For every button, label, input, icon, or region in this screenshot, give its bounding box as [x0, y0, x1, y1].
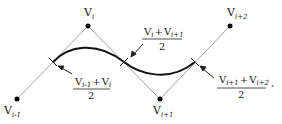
midpoint-formula-1: Vi-1+Vi 2 [73, 76, 111, 101]
vertex-dot-i-plus-1 [158, 97, 163, 102]
vertex-label-i: Vi [83, 6, 94, 21]
vertex-label-i-minus-1: Vi-1 [3, 104, 21, 119]
vertex-label-i-plus-2: Vi+2 [226, 6, 248, 21]
vertex-dot-i [86, 24, 91, 29]
vertex-label-i-plus-1: Vi+1 [152, 104, 174, 119]
arrow-icon-2 [131, 44, 143, 57]
svg-text:2: 2 [88, 90, 94, 101]
spline-diagram: Vi-1 Vi Vi+1 Vi+2 Vi-1+Vi 2 Vi+Vi+1 2 Vi… [0, 0, 282, 124]
svg-text:2: 2 [159, 41, 165, 52]
trailing-comma: , [271, 77, 274, 88]
midpoint-formula-3: Vi+1+Vi+2 2 , [217, 74, 274, 100]
spline-curve [53, 48, 195, 75]
arrow-icon-1 [58, 66, 72, 74]
arrow-icon-3 [200, 66, 214, 78]
svg-text:Vi+1+Vi+2: Vi+1+Vi+2 [218, 74, 270, 87]
svg-text:Vi-1+Vi: Vi-1+Vi [74, 76, 111, 89]
svg-text:Vi+Vi+1: Vi+Vi+1 [143, 26, 184, 39]
svg-text:2: 2 [238, 89, 244, 100]
vertex-dot-i-minus-1 [15, 97, 20, 102]
midpoint-formula-2: Vi+Vi+1 2 [142, 26, 184, 52]
vertex-dot-i-plus-2 [228, 24, 233, 29]
